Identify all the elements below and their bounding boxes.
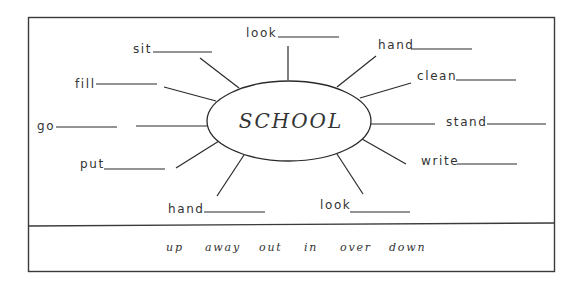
- word-bank: upawayoutinoverdown: [166, 241, 426, 254]
- word-item: hand: [378, 38, 472, 52]
- word-item: look: [320, 198, 410, 212]
- item-word: fill: [75, 77, 96, 91]
- item-word: clean: [417, 69, 457, 83]
- spoke-line: [176, 141, 219, 168]
- word-item: write: [421, 154, 517, 168]
- word-item: sit: [133, 42, 212, 56]
- word-bank-item: down: [389, 241, 426, 254]
- item-word: stand: [446, 115, 488, 129]
- word-item: fill: [75, 77, 157, 91]
- spoke-line: [200, 58, 239, 88]
- item-word: hand: [378, 38, 415, 52]
- word-item: go: [37, 119, 117, 133]
- word-item: look: [246, 26, 339, 40]
- item-word: look: [320, 198, 351, 212]
- word-bank-divider: [29, 223, 555, 226]
- item-word: sit: [133, 42, 152, 56]
- item-word: write: [421, 154, 459, 168]
- spoke-line: [337, 154, 363, 194]
- spoke-line: [164, 87, 216, 101]
- spoke-line: [337, 56, 376, 87]
- word-item: clean: [417, 69, 516, 83]
- center-word: SCHOOL: [239, 109, 344, 133]
- spoke-line: [217, 155, 244, 196]
- word-item: stand: [446, 115, 546, 129]
- worksheet-canvas: SCHOOL looksithandfillcleangostandputwri…: [0, 0, 580, 288]
- word-bank-item: over: [340, 241, 372, 254]
- word-bank-item: up: [166, 241, 184, 254]
- word-bank-item: in: [304, 241, 318, 254]
- word-item: put: [80, 157, 165, 171]
- word-bank-item: away: [205, 241, 241, 254]
- word-item: hand: [168, 202, 265, 216]
- word-bank-item: out: [259, 241, 283, 254]
- spoke-line: [362, 139, 406, 164]
- spoke-line: [360, 83, 411, 98]
- item-word: hand: [168, 202, 205, 216]
- item-word: look: [246, 26, 277, 40]
- item-word: go: [37, 119, 55, 133]
- item-word: put: [80, 157, 105, 171]
